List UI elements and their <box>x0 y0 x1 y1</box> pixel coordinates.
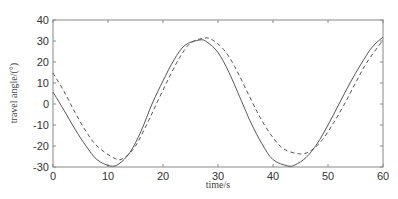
x-tick-label: 60 <box>377 170 389 182</box>
x-tick-label: 10 <box>102 170 114 182</box>
y-tick-label: 30 <box>37 35 49 47</box>
x-tick-label: 20 <box>157 170 169 182</box>
line-chart: 0102030405060-30-20-10010203040 time/s t… <box>0 0 398 199</box>
plot-area <box>53 20 383 167</box>
y-tick-label: 20 <box>37 56 49 68</box>
y-tick-label: -20 <box>33 140 49 152</box>
x-tick-label: 40 <box>267 170 279 182</box>
y-tick-label: -10 <box>33 119 49 131</box>
y-tick-label: 10 <box>37 77 49 89</box>
y-tick-label: 0 <box>43 98 49 110</box>
x-axis-label: time/s <box>206 179 231 190</box>
x-tick-label: 0 <box>50 170 56 182</box>
y-tick-label: 40 <box>37 14 49 26</box>
y-axis-label: travel angle/(°) <box>8 63 20 123</box>
y-tick-label: -30 <box>33 161 49 173</box>
x-tick-label: 50 <box>322 170 334 182</box>
